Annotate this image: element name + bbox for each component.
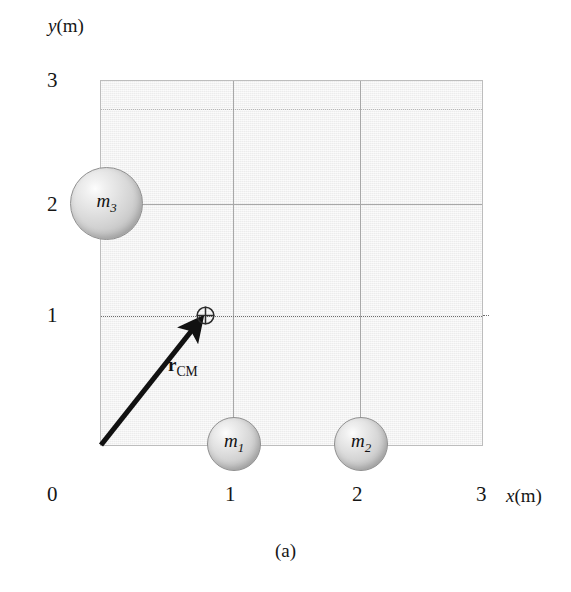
dotted-guide-center-of-mass [101, 316, 482, 317]
x-axis-title: x(m) [506, 486, 542, 505]
plot-area [100, 80, 483, 446]
plot-texture [101, 81, 482, 445]
mass-sphere-m3: m3 [70, 167, 143, 240]
dotted-guide-upper [101, 109, 482, 110]
y-axis-unit: (m) [56, 15, 83, 36]
dotted-guide-center-of-mass-extension [483, 315, 489, 316]
center-of-mass-figure: y(m) 3 2 1 0 1 2 3 x(m) m3 m1 [0, 0, 571, 592]
mass-sphere-m2-label: m2 [351, 431, 371, 455]
x-tick-1: 1 [225, 484, 236, 505]
gridline-vertical-x2 [360, 81, 361, 445]
mass-sphere-m3-label: m3 [96, 191, 116, 215]
y-tick-1: 1 [47, 305, 58, 326]
vector-subscript: CM [176, 364, 197, 379]
x-tick-3: 3 [476, 484, 487, 505]
gridline-horizontal-y2 [101, 204, 482, 205]
figure-caption: (a) [0, 541, 571, 560]
mass-sphere-m2: m2 [334, 417, 388, 471]
y-tick-0: 0 [47, 484, 58, 505]
y-tick-2: 2 [47, 194, 58, 215]
position-vector-label: rCM [168, 355, 198, 378]
y-tick-3: 3 [47, 70, 58, 91]
mass-sphere-m1-label: m1 [224, 431, 244, 455]
x-axis-unit: (m) [514, 485, 541, 506]
center-of-mass-marker [196, 306, 215, 325]
y-axis-title: y(m) [48, 16, 84, 35]
gridline-vertical-x1 [233, 81, 234, 445]
x-tick-2: 2 [352, 484, 363, 505]
mass-sphere-m1: m1 [207, 417, 261, 471]
